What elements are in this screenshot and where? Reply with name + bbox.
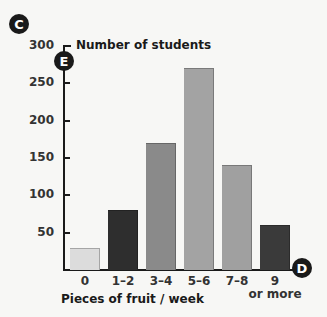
x-tick-label-line1: 3–4 [141,275,181,288]
bar-0 [70,248,100,270]
y-tick-label: 200 [20,113,54,127]
x-tick-label-line2: or more [245,288,305,301]
y-tick [63,232,70,234]
x-tick-label: 5–6 [179,275,219,288]
x-tick-label: 3–4 [141,275,181,288]
bar-3 [184,68,214,270]
x-tick-label: 9or more [255,275,295,301]
y-tick-label: 100 [20,187,54,201]
y-tick [63,120,70,122]
y-tick-label: 50 [20,225,54,239]
y-axis-top-cap [63,45,71,47]
y-tick-label: 300 [20,38,54,52]
bar-5 [260,225,290,270]
bar-2 [146,143,176,270]
bar-4 [222,165,252,270]
marker-c: C [9,14,29,34]
marker-e: E [54,51,74,71]
x-tick-label: 1–2 [103,275,143,288]
x-tick-label: 0 [65,275,105,288]
y-tick-label: 150 [20,150,54,164]
y-tick-label: 250 [20,75,54,89]
marker-d: D [292,258,312,278]
bar-1 [108,210,138,270]
x-axis-title: Pieces of fruit / week [61,292,204,306]
x-tick-label-line1: 1–2 [103,275,143,288]
y-axis-title: Number of students [76,38,211,52]
x-tick-label-line1: 5–6 [179,275,219,288]
y-tick [63,194,70,196]
x-tick-label-line1: 0 [65,275,105,288]
y-tick [63,157,70,159]
y-tick [63,82,70,84]
